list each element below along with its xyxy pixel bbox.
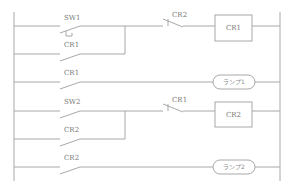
cr1-hold-contact: CR1	[14, 26, 125, 61]
rung-2: CR1 ランプ1	[14, 69, 280, 89]
cr1-nc-label: CR1	[172, 96, 187, 104]
cr1-coil: CR1	[215, 15, 280, 41]
cr2-nc-label: CR2	[172, 11, 187, 19]
lamp-1-label: ランプ1	[223, 78, 245, 85]
cr2-hold-label: CR2	[64, 126, 79, 134]
rung-3: SW2 CR2 CR1 CR2	[14, 96, 280, 146]
cr2-coil-label: CR2	[226, 111, 241, 119]
sw1-label: SW1	[64, 14, 80, 22]
sw1-contact: SW1	[14, 14, 163, 36]
lamp-2: ランプ2	[213, 160, 255, 174]
cr1-contact-label: CR1	[64, 69, 79, 77]
sw2-label: SW2	[64, 98, 80, 106]
pushbutton-icon	[66, 31, 72, 36]
lamp-2-label: ランプ2	[223, 163, 245, 170]
rung-4: CR2 ランプ2	[14, 154, 280, 174]
cr1-hold-label: CR1	[64, 41, 79, 49]
cr2-nc-contact: CR2	[163, 11, 215, 27]
cr2-contact-label: CR2	[64, 154, 79, 162]
rung-1: SW1 CR1 CR2 CR1	[14, 11, 280, 61]
ladder-diagram: SW1 CR1 CR2 CR1 CR1 ラン	[0, 0, 292, 191]
lamp-1: ランプ1	[213, 75, 255, 89]
cr2-hold-contact: CR2	[14, 111, 125, 146]
cr1-coil-label: CR1	[226, 24, 241, 32]
sw2-contact: SW2	[14, 98, 163, 118]
cr1-nc-contact: CR1	[163, 96, 215, 112]
cr2-coil: CR2	[215, 102, 280, 127]
